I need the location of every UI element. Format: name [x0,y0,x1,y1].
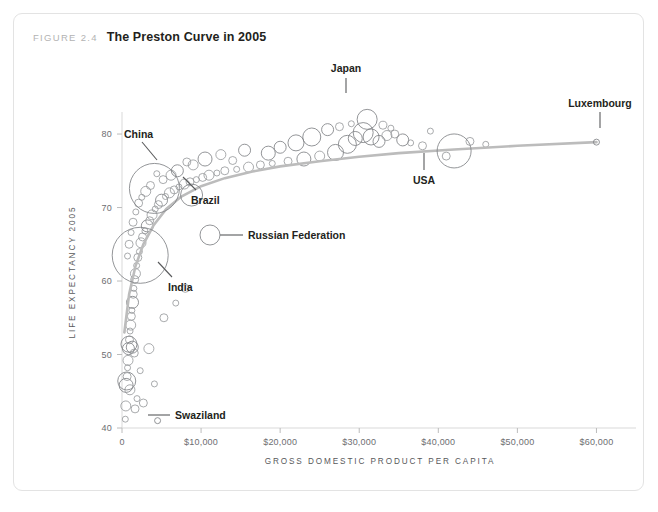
data-point-bubble [261,146,275,160]
data-point-bubble [183,158,191,166]
data-point-bubble [151,381,157,387]
data-point-bubble [221,167,229,175]
data-point-bubble [164,188,174,198]
country-bubble-japan [357,109,377,129]
data-point-bubble [427,128,433,134]
x-tick-label: $60,000 [579,437,613,447]
data-point-bubble [303,128,321,146]
annotation-label-usa: USA [413,174,436,186]
figure-container: FIGURE 2.4 The Preston Curve in 2005 405… [0,0,658,512]
data-point-bubble [234,166,240,172]
data-point-bubble [363,129,379,145]
y-axis-title: LIFE EXPECTANCY 2005 [68,206,77,339]
data-point-bubble [154,171,160,177]
y-tick-label: 40 [102,423,112,433]
data-point-bubble [173,300,179,306]
data-point-bubble [147,210,157,220]
scatter-points-group [118,121,489,422]
data-point-bubble [256,161,264,169]
data-point-bubble [216,150,226,160]
data-point-bubble [129,218,137,226]
data-point-bubble [160,314,168,322]
axes-group [122,112,636,428]
annotation-label-japan: Japan [331,62,361,74]
data-point-bubble [128,230,134,236]
data-point-bubble [322,124,334,136]
data-point-bubble [137,368,143,374]
data-point-bubble [123,373,131,381]
data-point-bubble [141,186,151,196]
x-axis-ticks: 0$10,000$20,000$30,000$40,000$50,000$60,… [119,428,613,447]
y-tick-label: 70 [102,203,112,213]
data-point-bubble [133,209,139,215]
data-point-bubble [338,135,356,153]
data-point-bubble [388,125,394,131]
data-point-bubble [418,142,426,150]
annotation-label-russian-federation: Russian Federation [248,229,345,241]
x-tick-label: $40,000 [421,437,455,447]
data-point-bubble [131,405,139,413]
data-point-bubble [125,240,133,248]
annotation-label-luxembourg: Luxembourg [568,97,632,109]
data-point-bubble [135,199,143,207]
data-point-bubble [179,179,189,189]
preston-curve-scatter-plot: 4050607080 0$10,000$20,000$30,000$40,000… [0,0,658,512]
data-point-bubble [198,152,212,166]
annotations-group: China Brazil Russian Federation India Ja… [124,62,632,421]
data-point-bubble [146,181,154,189]
data-point-bubble [382,131,392,141]
data-point-bubble [397,134,409,146]
y-tick-label: 50 [102,350,112,360]
x-tick-label: 0 [119,437,124,447]
data-point-bubble [125,253,131,259]
data-point-bubble [274,141,286,153]
data-point-bubble [239,144,251,156]
data-point-bubble [126,320,136,330]
data-point-bubble [408,140,414,146]
data-point-bubble [288,135,304,151]
data-point-bubble [144,344,154,354]
data-point-bubble [159,176,167,184]
data-point-bubble [139,399,147,407]
china-leader-line [142,142,157,160]
data-point-bubble [379,121,387,129]
x-tick-label: $20,000 [263,437,297,447]
data-point-bubble [199,173,207,181]
x-axis-title: GROSS DOMESTIC PRODUCT PER CAPITA [265,457,496,466]
data-point-bubble [204,170,214,180]
data-point-bubble [269,160,275,166]
y-axis-ticks: 4050607080 [102,129,122,433]
data-point-bubble [442,152,450,160]
annotation-label-brazil: Brazil [191,194,220,206]
y-tick-label: 60 [102,276,112,286]
data-point-bubble [122,416,128,422]
annotation-label-india: India [168,281,193,293]
data-point-bubble [335,123,343,131]
data-point-bubble [123,355,133,365]
data-point-bubble [229,157,237,165]
annotation-label-swaziland: Swaziland [175,409,226,421]
y-tick-label: 80 [102,129,112,139]
country-bubble-swaziland [155,418,161,424]
data-point-bubble [214,170,220,176]
x-tick-label: $30,000 [342,437,376,447]
annotation-label-china: China [124,128,153,140]
data-point-bubble [348,121,354,127]
preston-trend-curve [124,142,596,332]
x-tick-label: $50,000 [500,437,534,447]
russian-federation-bubble [200,225,220,245]
data-point-bubble [121,336,137,352]
data-point-bubble [134,396,140,402]
x-tick-label: $10,000 [184,437,218,447]
